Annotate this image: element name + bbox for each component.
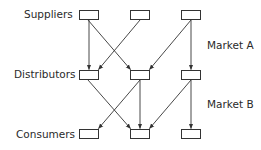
edge-s1-to-d2 [88, 20, 131, 70]
node-s2 [131, 11, 150, 20]
node-s1 [80, 11, 99, 20]
edge-d2-to-c1 [99, 80, 141, 129]
edge-d1-to-c2 [88, 80, 131, 129]
node-d1 [80, 71, 99, 80]
market-label-b: Market B [207, 98, 254, 110]
node-s3 [182, 11, 201, 20]
node-c1 [80, 130, 99, 139]
node-d3 [182, 71, 201, 80]
node-c2 [131, 130, 150, 139]
node-c3 [182, 130, 201, 139]
tier-label-suppliers: Suppliers [24, 8, 73, 20]
edge-s2-to-d1 [99, 20, 141, 70]
supply-chain-diagram: Suppliers Distributors Consumers Market … [0, 0, 261, 150]
tier-label-distributors: Distributors [14, 68, 75, 80]
market-label-a: Market A [207, 39, 254, 51]
edge-s3-to-d2 [150, 20, 192, 70]
tier-label-consumers: Consumers [16, 128, 75, 140]
edge-d3-to-c2 [150, 80, 192, 129]
node-d2 [131, 71, 150, 80]
